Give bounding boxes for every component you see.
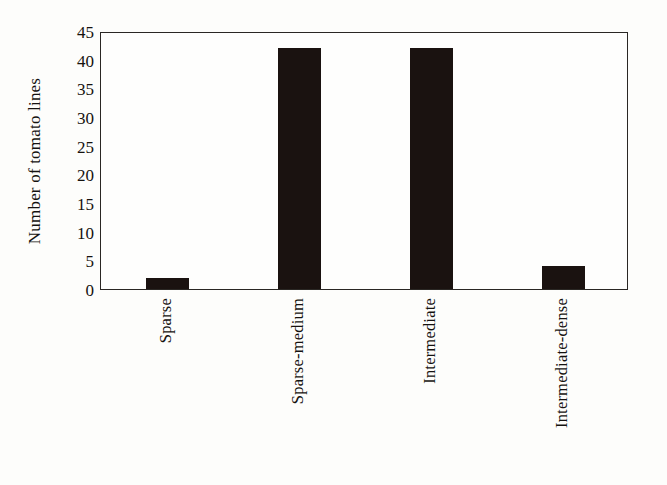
y-axis-tick-35: 35 [52,81,94,98]
x-axis-tick-slot-2: Intermediate [415,292,445,477]
bar-1 [278,48,321,289]
y-axis-tick-45: 45 [52,24,94,41]
bar-2 [410,48,453,289]
y-axis-tick-20: 20 [52,167,94,184]
x-axis-tick-slot-3: Intermediate-dense [547,292,577,477]
y-axis-title: Number of tomato lines [18,32,52,290]
bar-series [101,33,627,289]
x-axis-tick-label-2: Intermediate [420,298,440,384]
y-axis-tick-30: 30 [52,110,94,127]
bar-chart-figure: Number of tomato lines 05101520253035404… [0,0,667,485]
y-axis-title-text: Number of tomato lines [25,78,45,244]
y-axis-tick-labels: 051015202530354045 [52,32,94,290]
x-axis-tick-slot-0: Sparse [151,292,181,477]
x-axis-tick-label-3: Intermediate-dense [552,298,572,428]
y-axis-tick-5: 5 [52,253,94,270]
y-axis-tick-25: 25 [52,138,94,155]
x-axis-tick-slot-1: Sparse-medium [283,292,313,477]
y-axis-tick-40: 40 [52,52,94,69]
y-axis-tick-15: 15 [52,196,94,213]
x-axis-tick-label-0: Sparse [156,298,176,343]
y-axis-tick-0: 0 [52,282,94,299]
bar-0 [146,278,189,289]
plot-area [100,32,628,290]
x-axis-tick-labels: SparseSparse-mediumIntermediateIntermedi… [100,292,628,477]
bar-3 [542,266,585,289]
x-axis-tick-label-1: Sparse-medium [288,298,308,404]
y-axis-tick-10: 10 [52,224,94,241]
